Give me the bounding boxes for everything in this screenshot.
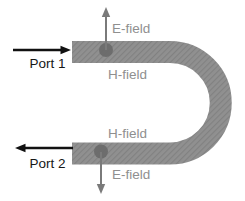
port1-label: Port 1 (29, 56, 65, 71)
hfield-bottom-label: H-field (108, 126, 147, 141)
port2-arrow-icon (15, 144, 73, 153)
hfield-top-label: H-field (108, 67, 147, 82)
efield-top-arrow-head (102, 7, 110, 17)
efield-top-label: E-field (112, 21, 150, 36)
port2-arrow-head (15, 144, 26, 153)
port1-arrow-icon (13, 46, 71, 55)
efield-bottom-label: E-field (112, 167, 150, 182)
waveguide-bend-diagram: Port 1 Port 2 E-field H-field H-field E-… (0, 0, 245, 201)
port1-arrow-head (61, 46, 72, 55)
diagram-canvas: Port 1 Port 2 E-field H-field H-field E-… (0, 0, 245, 201)
efield-bottom-arrow-head (97, 184, 105, 194)
port2-label: Port 2 (29, 156, 65, 171)
